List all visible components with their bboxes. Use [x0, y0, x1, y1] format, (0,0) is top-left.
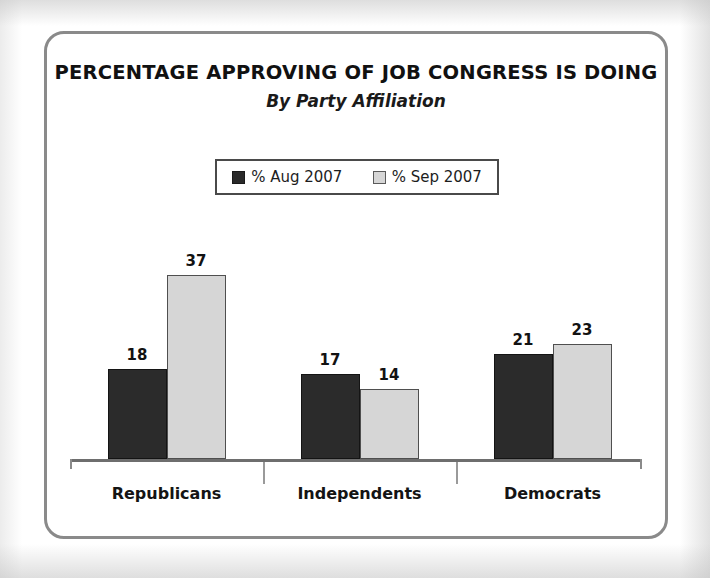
axis-endcap-right	[640, 459, 642, 469]
bar-value-republicans-sep: 37	[167, 252, 226, 270]
bar-group-democrats: 21 23	[456, 124, 649, 459]
bar-group-republicans: 18 37	[70, 124, 263, 459]
bar-wrap-democrats-sep: 23	[553, 344, 612, 459]
axis-separator-2	[456, 462, 458, 484]
bar-wrap-independents-sep: 14	[360, 389, 419, 459]
bar-wrap-republicans-sep: 37	[167, 275, 226, 459]
category-label-independents: Independents	[263, 484, 456, 503]
axis-endcap-left	[70, 459, 72, 469]
bar-republicans-sep[interactable]	[167, 275, 226, 459]
axis-separator-1	[263, 462, 265, 484]
bar-democrats-sep[interactable]	[553, 344, 612, 459]
category-labels: Republicans Independents Democrats	[70, 484, 642, 514]
bar-value-republicans-aug: 18	[108, 346, 167, 364]
category-axis-line	[70, 459, 642, 462]
bar-value-independents-aug: 17	[301, 351, 360, 369]
bar-wrap-independents-aug: 17	[301, 374, 360, 459]
plot-area: 18 37 17 14	[70, 124, 642, 508]
bar-wrap-republicans-aug: 18	[108, 369, 167, 459]
bar-group-independents: 17 14	[263, 124, 456, 459]
category-label-democrats: Democrats	[456, 484, 649, 503]
bars-area: 18 37 17 14	[70, 124, 642, 459]
bar-value-independents-sep: 14	[360, 366, 419, 384]
category-label-republicans: Republicans	[70, 484, 263, 503]
bar-independents-aug[interactable]	[301, 374, 360, 459]
chart-card: PERCENTAGE APPROVING OF JOB CONGRESS IS …	[44, 31, 668, 539]
bar-democrats-aug[interactable]	[494, 354, 553, 459]
chart-subtitle: By Party Affiliation	[47, 91, 665, 111]
bar-value-democrats-aug: 21	[494, 331, 553, 349]
bar-value-democrats-sep: 23	[553, 321, 612, 339]
chart-title: PERCENTAGE APPROVING OF JOB CONGRESS IS …	[47, 61, 665, 84]
bar-republicans-aug[interactable]	[108, 369, 167, 459]
bar-wrap-democrats-aug: 21	[494, 354, 553, 459]
bar-independents-sep[interactable]	[360, 389, 419, 459]
